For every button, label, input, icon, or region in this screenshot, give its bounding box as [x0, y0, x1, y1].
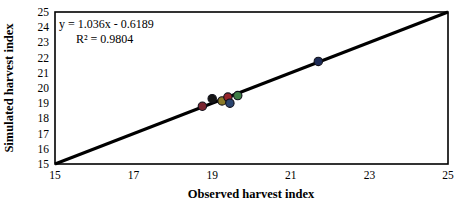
x-tick-label: 15	[49, 169, 61, 181]
x-tick-label: 19	[206, 169, 218, 181]
x-axis-label: Observed harvest index	[188, 187, 315, 201]
y-tick-label: 20	[38, 82, 50, 94]
y-tick-label: 16	[38, 143, 50, 155]
x-tick-label: 25	[442, 169, 454, 181]
y-tick-label: 21	[38, 67, 50, 79]
y-tick-label: 24	[38, 21, 50, 33]
y-tick-label: 19	[38, 97, 50, 109]
y-tick-label: 17	[38, 128, 50, 140]
y-axis-label: Simulated harvest index	[2, 23, 16, 153]
r-squared-text: R² = 0.9804	[76, 32, 133, 46]
x-axis-tick-labels: 151719212325	[49, 169, 454, 181]
data-point-blue	[226, 99, 234, 107]
y-tick-label: 22	[38, 52, 50, 64]
data-point-black	[208, 94, 216, 102]
x-tick-label: 21	[285, 169, 297, 181]
y-tick-label: 18	[38, 112, 50, 124]
scatter-chart-figure: 151719212325 1516171819202122232425 y = …	[0, 0, 469, 207]
data-point-green	[234, 91, 242, 99]
x-tick-label: 23	[364, 169, 376, 181]
y-axis-tick-labels: 1516171819202122232425	[38, 6, 50, 170]
regression-equation-text: y = 1.036x - 0.6189	[59, 17, 154, 31]
x-tick-label: 17	[128, 169, 140, 181]
y-tick-label: 25	[38, 6, 50, 18]
data-point-navy	[314, 57, 322, 65]
y-tick-label: 23	[38, 36, 50, 48]
y-tick-label: 15	[38, 158, 50, 170]
chart-canvas: 151719212325 1516171819202122232425 y = …	[0, 0, 469, 207]
data-point-maroon	[198, 102, 206, 110]
